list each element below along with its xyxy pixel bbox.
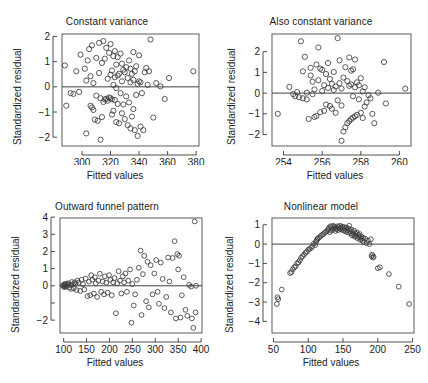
svg-text:150: 150 (335, 344, 352, 353)
svg-text:1: 1 (254, 219, 260, 230)
svg-text:380: 380 (188, 157, 205, 165)
svg-text:1: 1 (254, 67, 260, 78)
svg-text:250: 250 (124, 344, 141, 353)
svg-text:0: 0 (254, 88, 260, 99)
svg-text:4: 4 (42, 212, 48, 223)
svg-text:−4: −4 (249, 316, 261, 327)
svg-text:360: 360 (159, 157, 176, 165)
svg-text:−2: −2 (39, 132, 51, 143)
scatter-plot-2: −2−1012254256258260 (214, 0, 428, 165)
scatter-plot-1: −2−1012300320340360380 (0, 0, 214, 165)
svg-text:350: 350 (170, 344, 187, 353)
svg-text:2: 2 (44, 31, 50, 42)
svg-text:300: 300 (74, 157, 91, 165)
svg-text:0: 0 (44, 81, 50, 92)
svg-text:3: 3 (42, 229, 48, 240)
svg-text:200: 200 (101, 344, 118, 353)
panel-constant-variance: Constant variance Standardized residual … (0, 0, 214, 192)
panel-also-constant-variance: Also constant variance Standardized resi… (214, 0, 428, 192)
svg-text:300: 300 (147, 344, 164, 353)
svg-text:260: 260 (391, 157, 408, 165)
panel-xlabel-2: Fitted values (228, 170, 428, 181)
svg-text:250: 250 (404, 344, 421, 353)
svg-text:340: 340 (131, 157, 148, 165)
svg-text:254: 254 (275, 157, 292, 165)
svg-text:−2: −2 (37, 315, 49, 326)
svg-text:258: 258 (352, 157, 369, 165)
svg-text:−2: −2 (249, 277, 261, 288)
svg-text:2: 2 (254, 46, 260, 57)
svg-text:100: 100 (300, 344, 317, 353)
svg-text:320: 320 (102, 157, 119, 165)
panel-xlabel-1: Fitted values (8, 170, 222, 181)
svg-text:−1: −1 (249, 108, 261, 119)
svg-text:100: 100 (55, 344, 72, 353)
residual-plots-figure: Constant variance Standardized residual … (0, 0, 428, 383)
scatter-plot-3: −201234100150200250300350400 (0, 185, 214, 353)
svg-text:50: 50 (268, 344, 280, 353)
svg-text:−2: −2 (249, 129, 261, 140)
svg-text:150: 150 (78, 344, 95, 353)
svg-text:0: 0 (42, 280, 48, 291)
svg-text:400: 400 (193, 344, 210, 353)
svg-text:−3: −3 (249, 297, 261, 308)
svg-text:−1: −1 (39, 107, 51, 118)
svg-text:−1: −1 (249, 258, 261, 269)
scatter-plot-4: −4−3−2−10150100150200250 (214, 185, 428, 353)
svg-text:1: 1 (44, 56, 50, 67)
panel-xlabel-3: Fitted values (8, 357, 222, 368)
panel-outward-funnel-pattern: Outward funnel pattern Standardized resi… (0, 185, 214, 383)
panel-nonlinear-model: Nonlinear model Standardized residual Fi… (214, 185, 428, 383)
svg-text:2: 2 (42, 246, 48, 257)
panel-xlabel-4: Fitted values (224, 357, 428, 368)
svg-text:200: 200 (369, 344, 386, 353)
svg-text:256: 256 (314, 157, 331, 165)
svg-text:0: 0 (254, 239, 260, 250)
svg-text:1: 1 (42, 263, 48, 274)
